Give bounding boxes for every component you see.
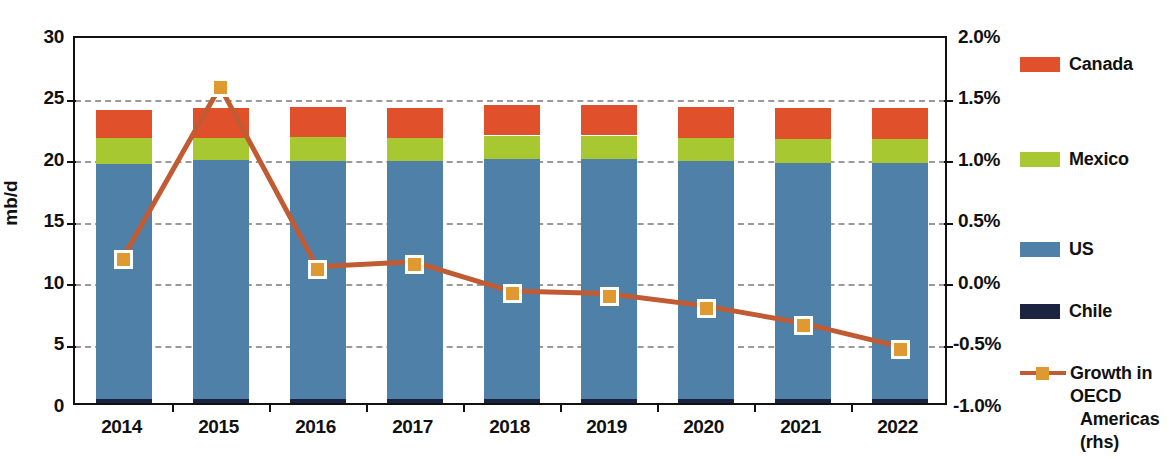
x-axis-label-2019: 2019 [558, 416, 655, 438]
x-axis-label-2014: 2014 [73, 416, 170, 438]
legend-label-growth-line-2: Americas (rhs) [1070, 408, 1176, 454]
legend-item-mexico[interactable]: Mexico [1020, 149, 1129, 170]
legend-item-growth-line[interactable]: Growth in OECD Americas (rhs) [1020, 362, 1176, 454]
x-axis-label-2016: 2016 [267, 416, 364, 438]
y-axis-tick-left-5: 5 [18, 333, 64, 355]
x-axis-label-2017: 2017 [364, 416, 461, 438]
growth-marker-2016[interactable] [308, 260, 327, 279]
legend-label-canada: Canada [1069, 54, 1133, 75]
legend-swatch-growth-line [1020, 364, 1066, 382]
legend-item-canada[interactable]: Canada [1020, 54, 1133, 75]
axis-tick-bottom-4 [463, 403, 465, 412]
legend-label-chile: Chile [1069, 301, 1112, 322]
y-axis-tick-right-0.0: 0.0% [958, 272, 1022, 294]
y-axis-tick-left-15: 15 [18, 210, 64, 232]
growth-marker-2019[interactable] [600, 287, 619, 306]
axis-tick-bottom-1 [172, 403, 174, 412]
growth-marker-2020[interactable] [697, 299, 716, 318]
y-axis-tick-left-30: 30 [18, 26, 64, 48]
y-axis-tick-left-20: 20 [18, 149, 64, 171]
x-axis-label-2022: 2022 [849, 416, 946, 438]
plot-area [73, 36, 947, 405]
y-axis-tick-right-1.0: 1.0% [958, 149, 1022, 171]
axis-tick-right-neg0.5 [944, 346, 953, 348]
chart-container: mb/d 30 25 20 15 10 5 0 2.0% 1.5% 1.0% 0… [0, 0, 1176, 459]
growth-marker-2017[interactable] [405, 255, 424, 274]
y-axis-tick-right-0.5: 0.5% [958, 210, 1022, 232]
growth-marker-2021[interactable] [794, 316, 813, 335]
x-axis-label-2020: 2020 [655, 416, 752, 438]
y-axis-tick-left-25: 25 [18, 87, 64, 109]
growth-line-svg [75, 38, 945, 403]
legend-swatch-chile [1020, 304, 1060, 319]
y-axis-tick-right-1.5: 1.5% [958, 87, 1022, 109]
legend-swatch-us [1020, 242, 1060, 257]
legend-label-us: US [1069, 239, 1094, 260]
y-axis-tick-left-10: 10 [18, 272, 64, 294]
growth-marker-2022[interactable] [891, 340, 910, 359]
y-axis-tick-right-neg1.0: -1.0% [953, 395, 1017, 417]
axis-tick-bottom-5 [560, 403, 562, 412]
axis-tick-right-0.5 [944, 223, 953, 225]
growth-marker-2014[interactable] [114, 250, 133, 269]
y-axis-tick-right-neg0.5: -0.5% [953, 333, 1017, 355]
growth-marker-2018[interactable] [503, 284, 522, 303]
legend-swatch-mexico [1020, 152, 1060, 167]
legend-swatch-canada [1020, 57, 1060, 72]
x-axis-label-2015: 2015 [170, 416, 267, 438]
axis-tick-right-0.0 [944, 284, 953, 286]
axis-tick-right-1.0 [944, 161, 953, 163]
axis-tick-bottom-3 [366, 403, 368, 412]
axis-tick-right-1.5 [944, 100, 953, 102]
x-axis-label-2018: 2018 [461, 416, 558, 438]
legend-label-growth-line-1: Growth in OECD [1070, 362, 1176, 408]
legend-item-us[interactable]: US [1020, 239, 1094, 260]
x-axis-label-2021: 2021 [752, 416, 849, 438]
axis-tick-bottom-8 [851, 403, 853, 412]
legend-label-growth-line: Growth in OECD Americas (rhs) [1070, 362, 1176, 454]
legend-label-mexico: Mexico [1069, 149, 1129, 170]
legend-item-chile[interactable]: Chile [1020, 301, 1112, 322]
axis-tick-bottom-6 [657, 403, 659, 412]
growth-marker-2015[interactable] [211, 78, 230, 97]
y-axis-tick-right-2.0: 2.0% [958, 26, 1022, 48]
y-axis-tick-left-0: 0 [18, 395, 64, 417]
axis-tick-bottom-2 [269, 403, 271, 412]
axis-tick-bottom-7 [754, 403, 756, 412]
